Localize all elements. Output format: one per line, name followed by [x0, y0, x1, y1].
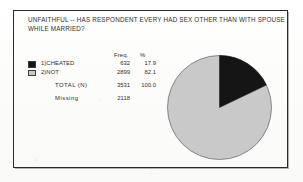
table-row-total: TOTAL (N) 3531 100.0 [28, 82, 168, 91]
legend-label-not: 2)NOT [41, 69, 59, 75]
legend-swatch-not [28, 70, 36, 77]
cell-freq-total: 3531 [108, 82, 130, 88]
table-header-row: Freq. % [28, 52, 168, 60]
title-line-1: UNFAITHFUL -- HAS RESPONDENT EVERY HAD S… [28, 16, 271, 25]
legend-label-cheated: 1)CHEATED [41, 60, 74, 66]
label-missing: Missing [55, 95, 78, 101]
label-total: TOTAL (N) [55, 82, 88, 88]
figure-container: UNFAITHFUL -- HAS RESPONDENT EVERY HAD S… [0, 0, 303, 182]
page-title: UNFAITHFUL -- HAS RESPONDENT EVERY HAD S… [28, 16, 271, 33]
cell-percent-cheated: 17.9 [132, 60, 156, 66]
pie-chart [166, 54, 273, 161]
column-header-freq: Freq. [114, 52, 128, 58]
table-row-missing: Missing 2118 [28, 95, 168, 104]
column-header-percent: % [140, 52, 145, 58]
cell-freq-missing: 2118 [108, 95, 130, 101]
title-line-2: WHILE MARRIED? [28, 25, 271, 34]
cell-freq-cheated: 632 [108, 60, 130, 66]
pie-chart-svg [166, 54, 273, 161]
cell-percent-not: 82.1 [132, 69, 156, 75]
frequency-table: Freq. % 1)CHEATED 632 17.9 2)NOT 2899 82… [28, 52, 168, 103]
table-row: 2)NOT 2899 82.1 [28, 69, 168, 78]
cell-freq-not: 2899 [108, 69, 130, 75]
cell-percent-total: 100.0 [132, 82, 156, 88]
table-row: 1)CHEATED 632 17.9 [28, 60, 168, 69]
legend-swatch-cheated [28, 61, 36, 68]
